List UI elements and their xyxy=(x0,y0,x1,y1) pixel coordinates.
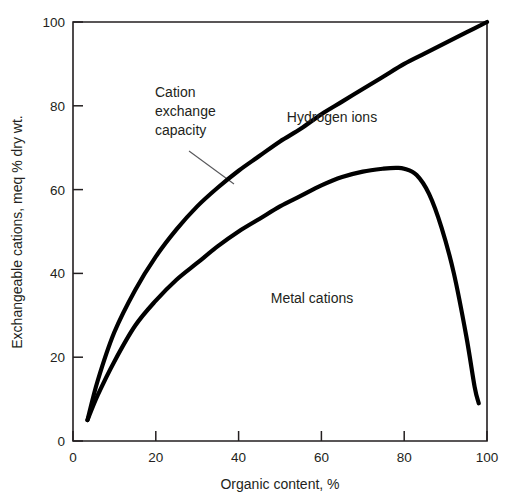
y-tick-label: 0 xyxy=(57,434,65,449)
annotation-line: capacity xyxy=(155,122,206,138)
x-axis-ticks xyxy=(73,431,487,441)
y-tick-label: 100 xyxy=(42,15,65,30)
metal-cations-annotation: Metal cations xyxy=(271,290,353,306)
hydrogen-ions-annotation: Hydrogen ions xyxy=(287,109,377,125)
curve-cation-exchange-capacity xyxy=(87,22,487,420)
y-axis-title: Exchangeable cations, meq % dry wt. xyxy=(9,115,25,348)
x-tick-label: 60 xyxy=(314,450,329,465)
annotation-line: Cation xyxy=(155,84,195,100)
plot-frame xyxy=(73,22,487,441)
y-axis-ticks xyxy=(73,22,83,441)
annotation-line: exchange xyxy=(155,103,216,119)
chart-figure: 0 20 40 60 80 100 0 20 40 60 80 100 Orga… xyxy=(0,0,516,499)
x-tick-label: 0 xyxy=(69,450,77,465)
y-tick-label: 60 xyxy=(50,183,65,198)
y-tick-label: 40 xyxy=(50,266,65,281)
chart-svg: 0 20 40 60 80 100 0 20 40 60 80 100 Orga… xyxy=(0,0,516,499)
cation-exchange-capacity-annotation: Cation exchange capacity xyxy=(155,84,216,138)
x-tick-label: 20 xyxy=(148,450,163,465)
x-axis-title: Organic content, % xyxy=(220,476,339,492)
y-tick-labels: 0 20 40 60 80 100 xyxy=(42,15,65,449)
y-tick-label: 20 xyxy=(50,350,65,365)
y-tick-label: 80 xyxy=(50,99,65,114)
x-tick-label: 100 xyxy=(476,450,499,465)
x-tick-label: 80 xyxy=(397,450,412,465)
x-tick-label: 40 xyxy=(231,450,246,465)
x-tick-labels: 0 20 40 60 80 100 xyxy=(69,450,498,465)
